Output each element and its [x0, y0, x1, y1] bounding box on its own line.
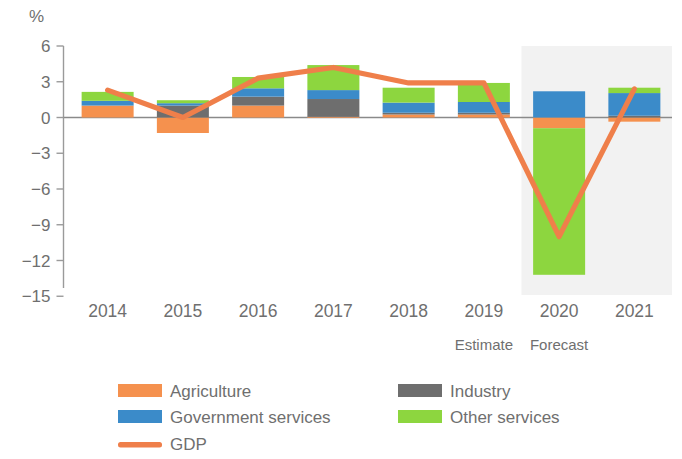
annotation-label: Estimate [455, 336, 513, 353]
bar-segment [383, 113, 435, 115]
y-tick-label: 0 [41, 109, 50, 128]
chart-annotations: EstimateForecast [455, 336, 589, 353]
bar-segment [533, 91, 585, 117]
bars-group [82, 65, 661, 275]
bar-segment [307, 117, 359, 118]
y-tick-label: 6 [41, 37, 50, 56]
chart-legend: AgricultureIndustryGovernment servicesOt… [118, 382, 560, 454]
chart-canvas: % 630−3−6−9−12−15 2014201520162017201820… [0, 0, 682, 459]
bar-segment [82, 101, 134, 106]
x-axis-category-labels: 20142015201620172018201920202021 [88, 301, 654, 321]
legend-color-swatch [398, 384, 442, 397]
legend-item-label: Industry [450, 382, 511, 401]
legend-item-label: Agriculture [170, 382, 251, 401]
y-axis-ticks: 630−3−6−9−12−15 [22, 37, 64, 306]
x-axis-tick-label: 2015 [163, 301, 202, 321]
bar-segment [307, 90, 359, 99]
y-tick-label: −12 [22, 252, 51, 271]
y-axis-unit-label: % [29, 7, 44, 26]
bar-segment [82, 106, 134, 118]
bar-segment [232, 106, 284, 118]
bar-segment [458, 102, 510, 113]
x-axis-tick-label: 2018 [389, 301, 428, 321]
bar-segment [608, 116, 660, 118]
bar-segment [307, 99, 359, 117]
y-tick-label: −9 [31, 216, 50, 235]
bar-segment [383, 103, 435, 113]
bar-segment [608, 93, 660, 116]
bar-segment [533, 118, 585, 129]
bar-segment [383, 88, 435, 103]
legend-line-marker [118, 442, 162, 448]
legend-color-swatch [118, 384, 162, 397]
legend-color-swatch [398, 410, 442, 423]
bar-segment [232, 97, 284, 106]
legend-item-label: Government services [170, 408, 331, 427]
y-tick-label: −6 [31, 180, 50, 199]
bar-segment [157, 100, 209, 103]
x-axis-tick-label: 2021 [615, 301, 654, 321]
legend-item-label: GDP [170, 435, 207, 454]
x-axis-tick-label: 2017 [314, 301, 353, 321]
bar-segment [383, 115, 435, 118]
gdp-sector-contribution-chart: % 630−3−6−9−12−15 2014201520162017201820… [0, 0, 682, 459]
annotation-label: Forecast [530, 336, 589, 353]
x-axis-tick-label: 2016 [239, 301, 278, 321]
legend-color-swatch [118, 410, 162, 423]
x-axis-tick-label: 2014 [88, 301, 127, 321]
y-tick-label: −15 [22, 287, 51, 306]
x-axis-tick-label: 2020 [540, 301, 579, 321]
y-tick-label: −3 [31, 144, 50, 163]
legend-item-label: Other services [450, 408, 560, 427]
y-tick-label: 3 [41, 73, 50, 92]
x-axis-tick-label: 2019 [464, 301, 503, 321]
